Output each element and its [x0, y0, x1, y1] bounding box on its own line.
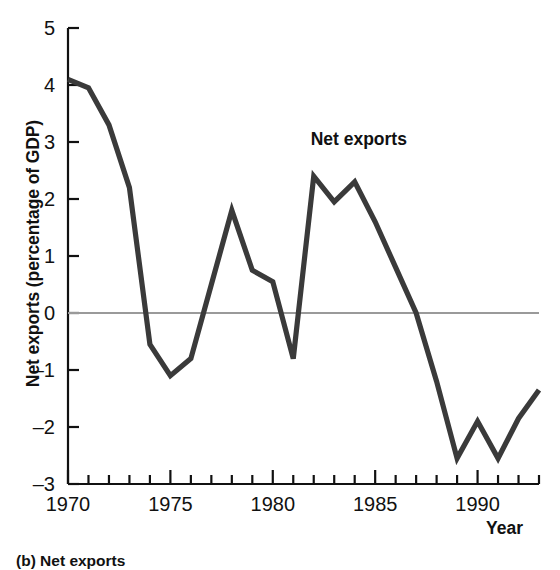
y-tick-label: 2: [44, 188, 55, 210]
x-tick-label: 1975: [148, 493, 193, 515]
y-tick-label: 0: [44, 302, 55, 324]
x-tick-label: 1990: [455, 493, 500, 515]
series-annotation-label: Net exports: [311, 129, 408, 149]
x-tick-label: 1970: [46, 493, 91, 515]
y-tick-label: –2: [33, 416, 55, 438]
x-tick-label: 1985: [353, 493, 398, 515]
data-line-net-exports: [68, 79, 539, 458]
y-tick-label: 1: [44, 245, 55, 267]
y-tick-label: –3: [33, 473, 55, 495]
y-tick-label: 5: [44, 17, 55, 39]
x-tick-label: 1980: [251, 493, 296, 515]
x-axis-title: Year: [486, 518, 523, 539]
y-tick-label: 3: [44, 131, 55, 153]
figure-caption: (b) Net exports: [16, 552, 125, 570]
y-tick-label: –1: [33, 359, 55, 381]
y-tick-label: 4: [44, 74, 55, 96]
